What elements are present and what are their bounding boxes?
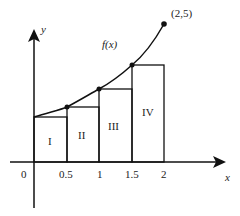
rectangle-label-1: I	[48, 135, 52, 147]
origin-label: 0	[21, 168, 27, 180]
point-1-5	[130, 63, 135, 68]
x-tick-0-5: 0.5	[59, 168, 73, 180]
point-0-5	[65, 105, 70, 110]
rectangle-label-2: II	[78, 129, 86, 141]
rectangle-label-3: III	[108, 120, 119, 132]
rectangle-label-4: IV	[142, 106, 154, 118]
endpoint-label: (2,5)	[171, 7, 192, 20]
point-2-5	[161, 21, 167, 27]
x-tick-2: 2	[161, 168, 167, 180]
curve-label: f(x)	[102, 38, 118, 51]
riemann-sum-diagram: y x 0 0.5 1 1.5 2 f(x) (2,5) I II III IV	[0, 0, 240, 216]
point-1	[97, 87, 102, 92]
y-axis-label: y	[40, 23, 46, 35]
x-axis-label: x	[224, 171, 230, 183]
x-tick-1-5: 1.5	[125, 168, 139, 180]
x-tick-1: 1	[97, 168, 103, 180]
